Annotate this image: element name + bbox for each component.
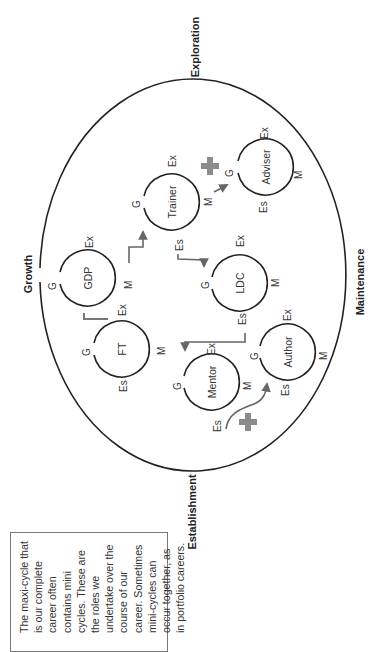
- stage-m: M: [156, 347, 167, 355]
- caption-text: The maxi-cycle that is our complete care…: [17, 483, 187, 633]
- plus-icon-mentor-author: [239, 413, 257, 431]
- role-label: Adviser: [260, 149, 272, 185]
- stage-g: G: [200, 281, 211, 289]
- stage-ex: Ex: [282, 309, 293, 321]
- stage-g: G: [47, 282, 58, 290]
- stage-m: M: [270, 279, 281, 287]
- stage-m: M: [123, 281, 134, 289]
- stage-ex: Ex: [84, 236, 95, 248]
- stage-ex: Ex: [235, 235, 246, 247]
- stage-m: M: [203, 198, 214, 206]
- stage-g: G: [249, 352, 260, 360]
- phase-label-maintenance: Maintenance: [354, 249, 366, 316]
- stage-ex: Ex: [206, 343, 217, 355]
- arrow-trainer-ldc: [178, 254, 204, 266]
- mini-cycle-adviser: Adviser G Ex M Es: [224, 127, 304, 213]
- mini-cycle-gdp: GDP G Ex M: [47, 236, 134, 306]
- phase-label-growth: Growth: [22, 254, 34, 293]
- mini-cycle-ldc: LDC G Ex M Es: [200, 235, 281, 325]
- stage-es: Es: [258, 201, 269, 213]
- stage-m: M: [242, 382, 253, 390]
- plus-icon-trainer-adviser: [201, 157, 219, 175]
- stage-g: G: [224, 169, 235, 177]
- arrow-trainer-adviser: [214, 185, 227, 192]
- caption-box: The maxi-cycle that is our complete care…: [10, 532, 168, 652]
- phase-label-exploration: Exploration: [189, 16, 201, 77]
- stage-es: Es: [280, 384, 291, 396]
- stage-ex: Ex: [117, 304, 128, 316]
- stage-ex: Ex: [259, 127, 270, 139]
- role-label: GDP: [82, 267, 94, 290]
- stage-es: Es: [118, 380, 129, 392]
- stage-g: G: [81, 348, 92, 356]
- role-label: LDC: [234, 272, 246, 293]
- role-label: Trainer: [166, 185, 178, 218]
- stage-m: M: [293, 171, 304, 179]
- connector-ft-gdp: [84, 313, 108, 319]
- stage-es: Es: [212, 420, 223, 432]
- stage-es: Es: [174, 239, 185, 251]
- mini-cycle-ft: FT G Ex M Es: [81, 304, 167, 392]
- stage-g: G: [172, 382, 183, 390]
- stage-m: M: [318, 352, 329, 360]
- role-label: Author: [282, 336, 294, 367]
- stage-g: G: [131, 200, 142, 208]
- role-label: FT: [116, 342, 128, 355]
- stage-ex: Ex: [167, 155, 178, 167]
- role-label: Mentor: [206, 365, 218, 398]
- mini-cycle-mentor: Mentor G Ex M Es: [172, 343, 253, 432]
- arrow-gdp-trainer: [129, 232, 143, 263]
- phase-label-establishment: Establishment: [186, 474, 198, 550]
- stage-es: Es: [237, 313, 248, 325]
- mini-cycle-author: Author G Ex M Es: [249, 309, 329, 396]
